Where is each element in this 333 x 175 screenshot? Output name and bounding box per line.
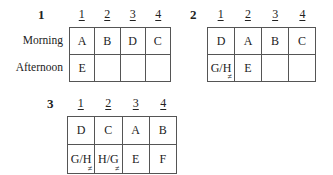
table-cell: D (68, 117, 95, 145)
row-label-morning: Morning (0, 34, 63, 47)
column-header-3: 3 (122, 97, 150, 110)
table-cell: A (70, 28, 95, 55)
table-cell: H/G ≠ (95, 145, 122, 174)
column-header-2: 2 (95, 97, 123, 110)
table-row-morning: A B D C (70, 28, 171, 55)
column-header-4: 4 (146, 8, 172, 21)
table-cell: F (149, 145, 176, 174)
schedule-table-3: D C A B G/H ≠ H/G ≠ E F (67, 116, 177, 174)
block-number: 2 (190, 8, 197, 21)
table-cell: C (289, 28, 316, 55)
column-header-4: 4 (289, 8, 316, 21)
block-number: 1 (38, 8, 45, 21)
table-row-afternoon: G/H ≠ H/G ≠ E F (68, 145, 177, 174)
block-number: 3 (47, 97, 54, 110)
column-header-1: 1 (207, 8, 234, 21)
table-row-morning: D A B C (208, 28, 316, 55)
column-headers: 1 2 3 4 (69, 8, 171, 21)
schedule-table-2: D A B C G/H ≠ E (207, 27, 316, 82)
table-cell: D (120, 28, 145, 55)
table-row-afternoon: E (70, 55, 171, 82)
not-equal-icon: ≠ (88, 165, 92, 173)
column-header-1: 1 (67, 97, 95, 110)
table-cell: E (70, 55, 95, 82)
not-equal-icon: ≠ (228, 73, 232, 81)
column-header-4: 4 (150, 97, 178, 110)
column-header-3: 3 (120, 8, 146, 21)
table-cell: A (235, 28, 262, 55)
table-cell: B (149, 117, 176, 145)
row-label-afternoon: Afternoon (0, 61, 63, 74)
table-cell: D (208, 28, 235, 55)
table-cell (262, 55, 289, 82)
table-cell: E (122, 145, 149, 174)
table-cell: C (95, 117, 122, 145)
table-cell: G/H ≠ (68, 145, 95, 174)
column-headers: 1 2 3 4 (207, 8, 316, 21)
table-cell (289, 55, 316, 82)
not-equal-icon: ≠ (115, 165, 119, 173)
table-cell: B (262, 28, 289, 55)
table-cell: B (95, 28, 120, 55)
table-cell (120, 55, 145, 82)
table-row-afternoon: G/H ≠ E (208, 55, 316, 82)
column-header-3: 3 (262, 8, 289, 21)
column-header-2: 2 (234, 8, 261, 21)
table-cell: C (145, 28, 170, 55)
column-header-1: 1 (69, 8, 95, 21)
column-header-2: 2 (95, 8, 121, 21)
table-row-morning: D C A B (68, 117, 177, 145)
table-cell (145, 55, 170, 82)
table-cell: E (235, 55, 262, 82)
table-cell: G/H ≠ (208, 55, 235, 82)
schedule-table-1: A B D C E (69, 27, 171, 82)
column-headers: 1 2 3 4 (67, 97, 177, 110)
table-cell: A (122, 117, 149, 145)
table-cell (95, 55, 120, 82)
